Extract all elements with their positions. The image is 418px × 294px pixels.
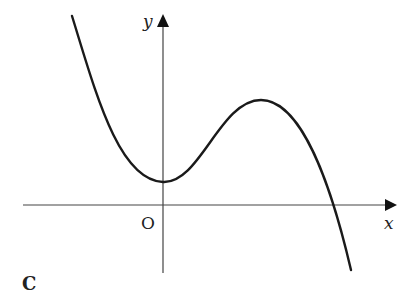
y-axis-label: y — [142, 11, 153, 31]
y-axis-arrow-icon — [157, 14, 169, 27]
x-axis-arrow-icon — [385, 199, 397, 211]
graph-figure: y x O C — [0, 0, 418, 294]
panel-label: C — [22, 273, 36, 294]
x-axis-label: x — [384, 213, 394, 233]
function-curve — [72, 16, 351, 270]
origin-label: O — [141, 213, 155, 233]
